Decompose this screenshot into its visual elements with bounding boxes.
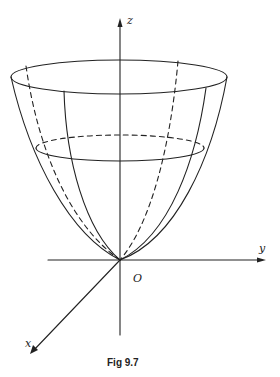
y-axis-label: y	[259, 243, 265, 254]
z-axis-arrowhead	[118, 18, 123, 27]
meridian-front-right	[120, 88, 206, 260]
top-rim-ellipse	[11, 60, 227, 94]
z-axis-label: z	[127, 15, 133, 26]
x-axis	[33, 260, 120, 351]
outline-left	[11, 77, 120, 260]
y-axis-arrowhead	[257, 258, 266, 263]
origin-label: O	[133, 273, 142, 284]
outline-right	[120, 77, 227, 260]
figure-caption: Fig 9.7	[107, 358, 139, 368]
x-axis-label: x	[25, 338, 31, 349]
paraboloid-diagram	[0, 0, 280, 377]
